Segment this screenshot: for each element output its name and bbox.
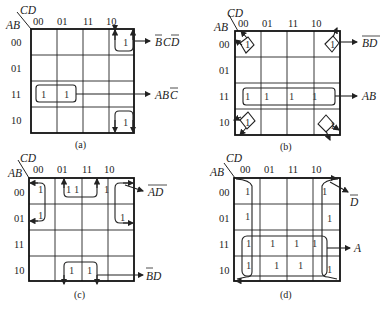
group-expression-a2: AB C (154, 88, 178, 101)
svg-text:1: 1 (322, 186, 327, 197)
kmap-a: CD AB 00 01 11 10 00 01 11 10 1 1 1 1 (5, 4, 180, 151)
svg-text:1: 1 (66, 184, 71, 195)
row-var-label: AB (209, 166, 224, 178)
col-code: 01 (264, 164, 275, 175)
svg-text:1: 1 (87, 265, 92, 276)
caption: (b) (280, 141, 292, 153)
svg-text:D: D (170, 36, 180, 48)
col-code: 10 (311, 164, 322, 175)
svg-text:1: 1 (274, 260, 279, 271)
row-var-label: AB (213, 21, 228, 33)
row-code: 00 (219, 39, 230, 50)
row-code: 00 (219, 187, 230, 198)
group-expression-d2: A (353, 242, 362, 254)
svg-text:B: B (155, 36, 162, 48)
col-var-label: CD (20, 4, 37, 16)
svg-text:1: 1 (74, 184, 79, 195)
row-var-label: AB (5, 19, 20, 31)
group-expression-b2: AB (361, 90, 376, 102)
svg-text:1: 1 (327, 213, 332, 224)
svg-text:1: 1 (38, 210, 43, 221)
row-code: 11 (219, 91, 229, 102)
svg-text:1: 1 (38, 184, 43, 195)
grid (31, 29, 134, 133)
group-expression-c2: BD (146, 268, 162, 282)
col-code: 00 (238, 18, 249, 29)
svg-text:1: 1 (298, 260, 303, 271)
kmap-d: CD AB 00 01 11 10 00 01 11 10 1 1 1 1 1 … (209, 152, 362, 301)
row-code: 10 (11, 115, 22, 126)
row-code: 01 (219, 213, 230, 224)
svg-text:1: 1 (289, 91, 294, 102)
svg-text:AB: AB (154, 89, 169, 101)
cell-one: 1 (123, 37, 128, 48)
row-code: 11 (219, 239, 229, 250)
svg-text:1: 1 (104, 184, 109, 195)
row-code: 10 (219, 265, 230, 276)
svg-text:1: 1 (312, 91, 317, 102)
caption: (d) (280, 289, 292, 301)
col-code: 01 (57, 16, 68, 27)
col-var-label: CD (226, 152, 243, 164)
svg-text:1: 1 (245, 186, 250, 197)
col-code: 00 (33, 164, 44, 175)
kmap-b: CD AB 00 01 11 10 00 01 11 10 1 1 1 1 1 … (213, 7, 380, 153)
svg-text:1: 1 (294, 238, 299, 249)
svg-text:1: 1 (69, 265, 74, 276)
svg-text:1: 1 (120, 212, 125, 223)
svg-text:C: C (170, 89, 178, 101)
svg-text:1: 1 (246, 260, 251, 271)
row-code: 10 (14, 265, 25, 276)
col-var-label: CD (20, 152, 37, 164)
col-code: 11 (288, 18, 298, 29)
row-code: 00 (11, 37, 22, 48)
col-code: 01 (57, 164, 68, 175)
cell-one: 1 (41, 89, 46, 100)
svg-text:1: 1 (327, 264, 332, 275)
kmap-c: CD AB 00 01 11 10 00 01 11 10 1 1 1 1 1 … (7, 152, 167, 301)
row-code: 00 (14, 187, 25, 198)
svg-text:D: D (349, 196, 359, 208)
group-expression-c1: AD (147, 185, 167, 198)
row-code: 10 (219, 117, 230, 128)
cell-one: 1 (123, 117, 128, 128)
col-code: 00 (240, 164, 251, 175)
caption: (c) (74, 289, 85, 301)
grid (235, 31, 340, 135)
svg-text:1: 1 (245, 211, 250, 222)
col-code: 10 (104, 164, 115, 175)
svg-text:1: 1 (270, 238, 275, 249)
svg-text:C: C (163, 36, 171, 48)
group-expression-a1: B C D (155, 35, 180, 48)
col-code: 11 (83, 16, 93, 27)
svg-text:BD: BD (362, 37, 378, 49)
row-code: 01 (14, 213, 25, 224)
caption: (a) (75, 139, 86, 151)
col-code: 00 (33, 16, 44, 27)
col-code: 11 (82, 164, 92, 175)
row-code: 11 (11, 89, 21, 100)
row-var-label: AB (7, 167, 22, 179)
svg-text:1: 1 (312, 238, 317, 249)
svg-text:1: 1 (245, 91, 250, 102)
col-code: 10 (106, 16, 117, 27)
svg-text:AD: AD (147, 186, 164, 198)
karnaugh-map-figure: CD AB 00 01 11 10 00 01 11 10 1 1 1 1 (0, 0, 386, 312)
col-code: 11 (288, 164, 298, 175)
cell-one: 1 (64, 89, 69, 100)
col-code: 10 (311, 18, 322, 29)
row-code: 01 (219, 65, 230, 76)
group-expression-d1: D (349, 195, 359, 208)
svg-text:1: 1 (264, 91, 269, 102)
row-code: 01 (11, 63, 22, 74)
svg-text:BD: BD (146, 270, 162, 282)
svg-text:1: 1 (245, 39, 250, 50)
col-code: 01 (262, 18, 273, 29)
group-expression-b1: BD (362, 36, 380, 49)
svg-text:1: 1 (246, 238, 251, 249)
row-code: 11 (14, 239, 24, 250)
